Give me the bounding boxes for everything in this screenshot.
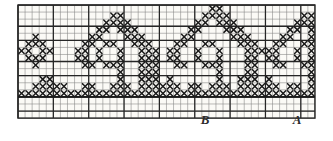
chart-sheet: BA — [0, 0, 333, 141]
chart-label-b: B — [200, 112, 210, 127]
cross-stitch-chart: BA — [0, 0, 333, 141]
chart-label-a: A — [292, 112, 302, 127]
